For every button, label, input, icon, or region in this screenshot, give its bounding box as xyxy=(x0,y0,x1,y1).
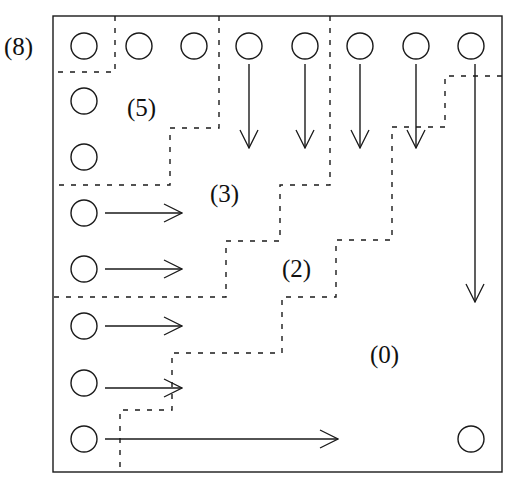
label-2: (2) xyxy=(282,255,311,283)
node-circle xyxy=(236,33,262,59)
outer-frame xyxy=(53,16,502,472)
node-circle xyxy=(347,33,373,59)
node-circle xyxy=(71,313,97,339)
node-circle xyxy=(71,33,97,59)
node-circle xyxy=(71,200,97,226)
node-circle xyxy=(71,426,97,452)
node-circle xyxy=(403,33,429,59)
label-0: (0) xyxy=(370,341,399,369)
label-8: (8) xyxy=(4,33,33,61)
node-circle xyxy=(126,33,152,59)
node-circle xyxy=(71,370,97,396)
node-circle xyxy=(71,256,97,282)
arrows xyxy=(105,64,475,439)
node-circle xyxy=(181,33,207,59)
region-boundaries xyxy=(53,16,502,472)
region-labels: (8)(5)(3)(2)(0) xyxy=(4,33,399,369)
node-circle xyxy=(71,144,97,170)
node-circle xyxy=(292,33,318,59)
node-circle xyxy=(458,426,484,452)
node-circle xyxy=(458,33,484,59)
label-3: (3) xyxy=(210,180,239,208)
node-circle xyxy=(71,88,97,114)
label-5: (5) xyxy=(127,94,156,122)
grid-partition-diagram: (8)(5)(3)(2)(0) xyxy=(0,0,516,485)
